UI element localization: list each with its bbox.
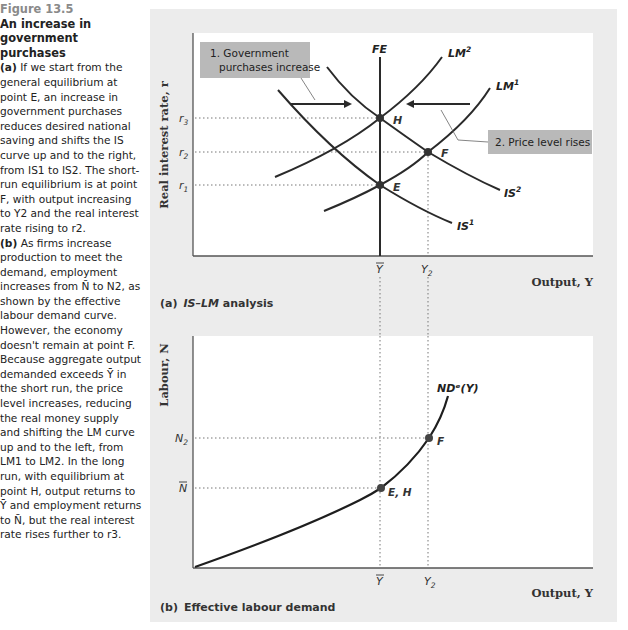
tick-ybar-b: Y [376, 575, 384, 588]
annotation-1-line1: 1. Government [210, 47, 289, 59]
figure-graphics: 1. Government purchases increase 2. Pric… [0, 0, 628, 630]
tick-ybar-a: Y [376, 263, 384, 276]
tick-nbar: N [179, 482, 187, 495]
tick-r1: r1 [179, 179, 188, 194]
tick-y2-b: Y2 [424, 575, 436, 590]
panel-a-title: (a)IS–LM analysis [160, 297, 274, 310]
tick-n2: N2 [175, 432, 188, 447]
tick-r2: r2 [179, 146, 189, 161]
plot-a-x-axis-title: Output, Y [531, 275, 593, 289]
nd-curve-label: NDᵉ(Y) [437, 382, 479, 395]
panel-a-isl-m: 1. Government purchases increase 2. Pric… [157, 33, 594, 310]
point-h-label: H [393, 114, 402, 127]
point-f-b-label: F [437, 435, 445, 447]
point-eh-label: E, H [388, 486, 412, 498]
point-f-b [425, 434, 433, 442]
annotation-1-line2: purchases increase [219, 61, 320, 73]
panel-b-title: (b)Effective labour demand [160, 601, 335, 614]
plot-a-y-axis-title: Real interest rate, r [157, 80, 171, 208]
point-e [376, 181, 384, 189]
point-eh [377, 484, 385, 492]
point-f-label: F [441, 147, 449, 160]
point-e-label: E [393, 181, 401, 194]
tick-r3: r3 [179, 112, 189, 127]
panel-b-labour-demand: E, H F NDᵉ(Y) N2 N Y Y2 Labour, N Output… [157, 336, 594, 614]
fe-label: FE [372, 43, 388, 56]
annotation-2-text: 2. Price level rises [495, 136, 590, 148]
point-h [376, 114, 384, 122]
point-f [424, 148, 432, 156]
tick-y2-a: Y2 [421, 263, 433, 278]
plot-b-x-axis-title: Output, Y [531, 586, 593, 600]
plot-b-area [193, 336, 593, 568]
plot-b-y-axis-title: Labour, N [157, 343, 171, 407]
panel-connectors [380, 277, 428, 335]
